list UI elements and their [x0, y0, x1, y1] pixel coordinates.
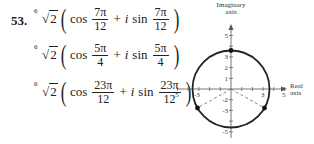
y-tick-label: 1 — [225, 75, 229, 83]
root-3: 6√2 ( cos 23π12 + i sin 23π12 ) — [34, 75, 193, 109]
sin-label: sin — [132, 47, 147, 63]
radicand: 2 — [49, 10, 58, 26]
angle-fraction: 5π4 — [153, 42, 169, 69]
sixth-root: 6√2 — [34, 47, 58, 63]
root-1: 6√2 ( cos 7π12 + i sin 7π12 ) — [34, 2, 181, 36]
y-tick-label: -3 — [222, 107, 228, 115]
sixth-root: 6√2 — [34, 84, 58, 100]
imaginary-unit: i — [125, 47, 129, 63]
angle-fraction: 7π12 — [153, 6, 169, 33]
angle-fraction: 23π12 — [92, 79, 114, 106]
x-tick-label: 3 — [261, 91, 265, 99]
numerator: 5π — [153, 42, 169, 56]
y-tick-label: 2 — [225, 64, 229, 72]
exercise-number: 53. — [11, 13, 27, 29]
cos-label: cos — [70, 47, 87, 63]
cos-label: cos — [70, 84, 87, 100]
y-tick-label: 3 — [225, 53, 229, 61]
radicand: 2 — [49, 83, 58, 99]
plus-sign: + — [119, 84, 126, 100]
denominator: 4 — [156, 56, 166, 69]
root-point-lower-left — [195, 106, 200, 111]
x-tick-label: 5 — [282, 91, 286, 99]
exercise-53: 53. 6√2 ( cos 7π12 + i sin 7π12 ) 6√2 ( … — [0, 0, 175, 144]
numerator: 7π — [153, 6, 169, 20]
numerator: 23π — [92, 79, 114, 93]
complex-plane-diagram: -5 -3 3 5 5 3 2 1 -2 -3 -5 Imaginary axi… — [175, 0, 314, 144]
imaginary-unit: i — [131, 84, 135, 100]
x-tick-label: -3 — [194, 91, 200, 99]
sin-label: sin — [132, 11, 147, 27]
real-axis-label-line2: axis — [290, 89, 302, 97]
angle-fraction: 7π12 — [92, 6, 108, 33]
left-paren: ( — [61, 78, 67, 106]
y-tick-labels: 5 3 2 1 -2 -3 -5 — [222, 32, 228, 136]
root-point-lower-right — [262, 106, 267, 111]
numerator: 7π — [92, 6, 108, 20]
left-paren: ( — [61, 5, 67, 33]
root-index: 6 — [34, 43, 38, 51]
imaginary-axis-label-line2: axis — [225, 8, 237, 16]
root-index: 6 — [34, 80, 38, 88]
cos-label: cos — [70, 11, 87, 27]
denominator: 12 — [92, 20, 108, 33]
denominator: 12 — [153, 20, 169, 33]
numerator: 5π — [92, 42, 108, 56]
root-point-top — [229, 48, 234, 53]
radicand: 2 — [49, 46, 58, 62]
y-tick-label: -5 — [222, 128, 228, 136]
sin-label: sin — [138, 84, 153, 100]
imaginary-unit: i — [125, 11, 129, 27]
left-paren: ( — [61, 41, 67, 69]
angle-fraction: 5π4 — [92, 42, 108, 69]
sixth-root: 6√2 — [34, 11, 58, 27]
denominator: 4 — [95, 56, 105, 69]
root-2: 6√2 ( cos 5π4 + i sin 5π4 ) — [34, 38, 181, 72]
y-tick-label: 5 — [225, 32, 229, 40]
denominator: 12 — [95, 93, 111, 106]
x-tick-label: -5 — [175, 91, 179, 99]
y-tick-label: -2 — [222, 96, 228, 104]
plus-sign: + — [113, 11, 120, 27]
root-index: 6 — [34, 7, 38, 15]
plus-sign: + — [113, 47, 120, 63]
